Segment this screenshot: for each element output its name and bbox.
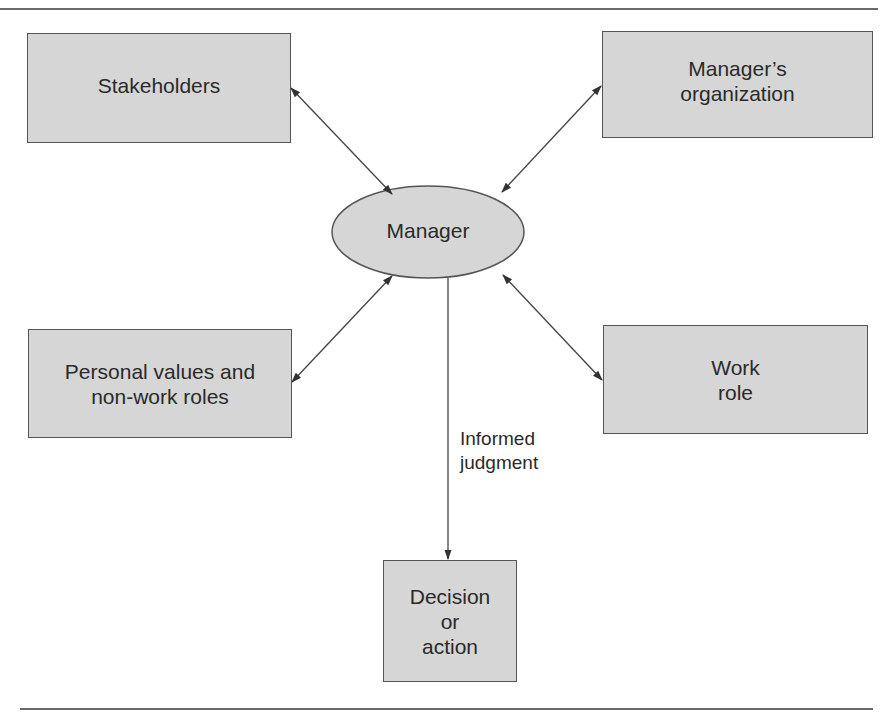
node-work-role: Work role	[603, 325, 868, 434]
edge-label-informed-judgment: Informed judgment	[460, 403, 538, 475]
node-label: Stakeholders	[98, 73, 221, 98]
node-personal-values: Personal values and non-work roles	[28, 329, 292, 438]
edge-work-role-manager	[503, 275, 602, 380]
node-decision: Decision or action	[383, 560, 517, 682]
node-label: Personal values and non-work roles	[65, 359, 255, 409]
edge-stakeholders-manager	[291, 88, 392, 194]
node-label: Decision or action	[410, 584, 491, 659]
edge-label-text: Informed judgment	[460, 428, 538, 473]
node-label: Work role	[711, 355, 760, 405]
edge-organization-manager	[502, 86, 601, 192]
node-label: Manager’s organization	[680, 56, 794, 106]
node-managers-organization: Manager’s organization	[602, 31, 873, 138]
manager-text: Manager	[387, 219, 470, 242]
edge-personal-values-manager	[292, 276, 392, 382]
node-stakeholders: Stakeholders	[27, 33, 291, 143]
manager-label: Manager	[332, 219, 524, 243]
